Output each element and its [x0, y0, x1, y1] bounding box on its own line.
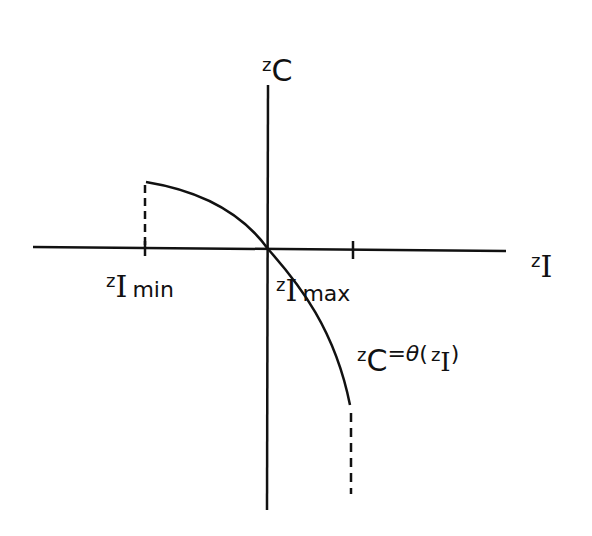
arg-prefix: z: [431, 344, 440, 365]
curve-equation-label: zC=θ(zI): [357, 346, 459, 376]
vertical-axis-label: zC: [262, 56, 292, 86]
max-tick-label: zI max: [276, 276, 350, 306]
label-suffix: min: [132, 277, 174, 302]
min-tick-label: zI min: [106, 272, 174, 302]
equals-sign: =: [387, 341, 405, 366]
lhs-sub: C: [366, 343, 387, 378]
label-prefix: z: [531, 250, 540, 271]
arg-sub: I: [440, 347, 450, 377]
label-prefix: z: [262, 54, 271, 75]
open-paren: (: [419, 341, 428, 366]
label-suffix: max: [302, 281, 350, 306]
label-prefix: z: [276, 274, 285, 295]
horizontal-axis-label: zI: [531, 252, 552, 282]
vertical-axis: [267, 85, 268, 510]
label-sub: I: [115, 269, 127, 304]
theta-symbol: θ: [406, 341, 419, 366]
label-prefix: z: [106, 270, 115, 291]
label-sub: I: [285, 273, 297, 308]
close-paren: ): [451, 341, 460, 366]
diagram-canvas: [0, 0, 592, 536]
lhs-prefix: z: [357, 344, 366, 365]
label-sub: C: [271, 53, 292, 88]
label-sub: I: [540, 249, 552, 284]
